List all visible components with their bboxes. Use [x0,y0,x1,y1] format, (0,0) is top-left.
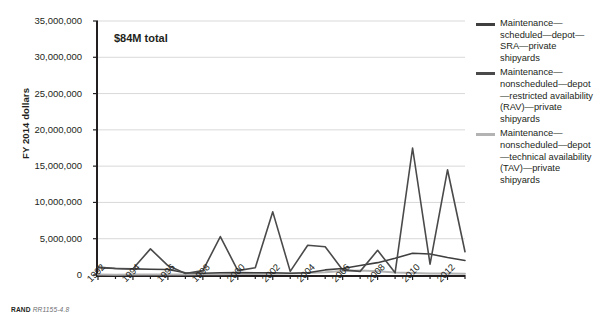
y-axis-tick-label: 30,000,000 [4,53,82,63]
source-note-brand: RAND [11,306,31,313]
plot-canvas [98,21,465,275]
legend-item: Maintenance—scheduled—depot—SRA—private … [476,18,594,64]
total-annotation: $84M total [114,32,168,44]
y-axis-tick-label: 35,000,000 [4,16,82,26]
y-axis-tick-label: 20,000,000 [4,125,82,135]
y-axis-tick-label: 5,000,000 [4,234,82,244]
y-axis-tick-labels: 05,000,00010,000,00015,000,00020,000,000… [0,0,82,323]
legend-label: Maintenance—nonscheduled—depot—restricte… [500,67,594,125]
legend-color-swatch [476,23,495,26]
legend-label: Maintenance—nonscheduled—depot—technical… [500,128,594,186]
legend-color-swatch [476,72,495,75]
legend-item: Maintenance—nonscheduled—depot—technical… [476,128,594,186]
y-axis-tick-label: 0 [4,270,82,280]
y-axis-tick-label: 15,000,000 [4,161,82,171]
chart-figure: FY 2014 dollars 05,000,00010,000,00015,0… [0,0,597,323]
chart-legend: Maintenance—scheduled—depot—SRA—private … [476,18,594,189]
source-note-id: RR1155-4.8 [33,306,70,313]
legend-item: Maintenance—nonscheduled—depot—restricte… [476,67,594,125]
plot-area: $84M total [96,21,465,277]
y-axis-tick-label: 10,000,000 [4,198,82,208]
source-note: RAND RR1155-4.8 [11,306,69,313]
legend-color-swatch [476,133,495,136]
y-axis-tick-label: 25,000,000 [4,89,82,99]
x-axis-tick-labels: 1992199419961998200020022004200620082010… [96,275,463,321]
legend-label: Maintenance—scheduled—depot—SRA—private … [500,18,594,64]
